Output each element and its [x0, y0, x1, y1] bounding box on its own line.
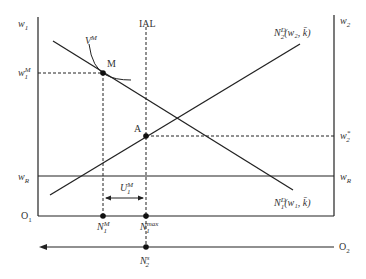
point-a: [143, 133, 149, 139]
n2s-label: Ns2: [140, 256, 149, 266]
demand1-label: ND1(w₁, k̄): [274, 198, 310, 208]
point-n1max: [143, 213, 149, 219]
point-m: [100, 70, 106, 76]
ial-label: IAL: [139, 19, 156, 29]
demand1-curve: [53, 41, 293, 190]
m-label: M: [107, 59, 116, 69]
a-label: A: [134, 124, 141, 134]
origin-right-label: O2: [339, 242, 350, 252]
left-axis-label: w1: [18, 19, 28, 29]
demand2-curve: [50, 44, 300, 195]
point-n1m: [100, 213, 106, 219]
n1m-label: NM1: [97, 222, 107, 232]
vm-label: VM: [85, 36, 97, 46]
lower-axis-arrowhead: [39, 244, 47, 250]
w1m-label: wM1: [18, 68, 28, 78]
n1max-label: Nmax1: [140, 222, 150, 232]
demand2-label: ND2(w₂, k̄): [274, 28, 310, 38]
point-n2s: [143, 244, 149, 250]
right-axis-label: w2: [340, 16, 350, 26]
origin-left-label: O1: [21, 211, 32, 221]
u1m-arrowhead-left: [105, 196, 111, 201]
w2star-label: w*2: [340, 131, 350, 141]
wr-left-label: wR: [18, 172, 29, 182]
wage-diagram: [0, 0, 366, 279]
u1m-arrowhead-right: [138, 196, 144, 201]
wr-right-label: wR: [340, 172, 351, 182]
u1m-label: UM1: [120, 183, 131, 193]
